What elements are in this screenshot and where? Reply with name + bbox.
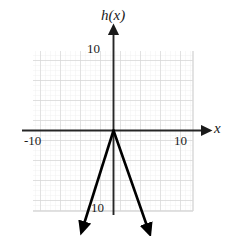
x-axis-label: x — [214, 121, 221, 136]
y-tick-label-positive-10: 10 — [87, 42, 100, 55]
x-tick-label-negative-10: -10 — [24, 134, 41, 147]
x-tick-label-positive-10: 10 — [174, 134, 187, 147]
coordinate-plane — [0, 0, 242, 236]
graph-figure: h(x) x 10 -10 10 10 — [0, 0, 242, 236]
y-axis-label: h(x) — [101, 8, 125, 23]
y-tick-label-negative-10: 10 — [91, 201, 104, 214]
